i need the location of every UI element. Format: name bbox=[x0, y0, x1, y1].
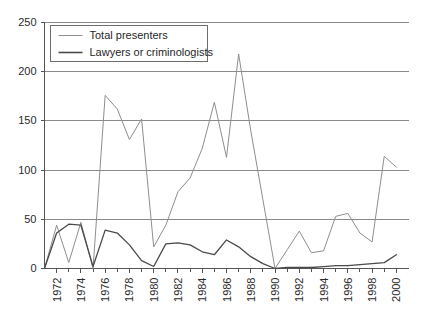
x-tick-label-1988: 1988 bbox=[245, 278, 257, 302]
x-tick-label-1996: 1996 bbox=[342, 278, 354, 302]
y-tick-label-150: 150 bbox=[18, 114, 36, 126]
x-tick-label-1972: 1972 bbox=[51, 278, 63, 302]
chart-canvas: 050100150200250 197219741976197819801982… bbox=[0, 0, 421, 326]
x-tick-label-1976: 1976 bbox=[99, 278, 111, 302]
y-tick-label-250: 250 bbox=[18, 16, 36, 28]
x-tick-label-1984: 1984 bbox=[196, 278, 208, 302]
x-tick-label-1986: 1986 bbox=[221, 278, 233, 302]
x-tick-label-1974: 1974 bbox=[75, 278, 87, 302]
x-tick-label-1994: 1994 bbox=[318, 278, 330, 302]
x-tick-label-1982: 1982 bbox=[172, 278, 184, 302]
x-tick-label-1978: 1978 bbox=[123, 278, 135, 302]
x-tick-label-1992: 1992 bbox=[293, 278, 305, 302]
y-tick-label-100: 100 bbox=[18, 164, 36, 176]
y-tick-group: 050100150200250 bbox=[18, 16, 44, 274]
legend-label-total-presenters: Total presenters bbox=[90, 29, 169, 41]
legend-label-lawyers-or-criminologists: Lawyers or criminologists bbox=[90, 46, 214, 58]
line-chart-figure: 050100150200250 197219741976197819801982… bbox=[0, 0, 421, 326]
y-tick-label-0: 0 bbox=[30, 262, 36, 274]
legend: Total presenters Lawyers or criminologis… bbox=[51, 26, 214, 62]
x-tick-label-1990: 1990 bbox=[269, 278, 281, 302]
x-tick-group: 1972197419761978198019821984198619881990… bbox=[51, 269, 403, 302]
y-tick-label-50: 50 bbox=[24, 213, 36, 225]
x-tick-label-1998: 1998 bbox=[366, 278, 378, 302]
data-series-group bbox=[45, 54, 397, 269]
x-tick-label-2000: 2000 bbox=[390, 278, 402, 302]
y-tick-label-200: 200 bbox=[18, 65, 36, 77]
x-tick-label-1980: 1980 bbox=[148, 278, 160, 302]
series-line-total-presenters bbox=[45, 54, 397, 269]
series-line-lawyers-or-criminologists bbox=[45, 224, 397, 268]
